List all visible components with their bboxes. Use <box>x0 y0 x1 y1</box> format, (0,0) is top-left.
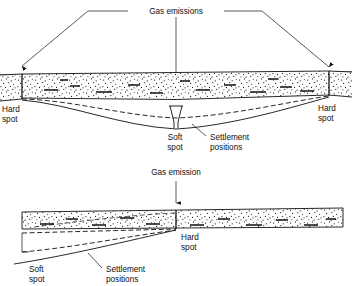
upper-soft-spot-label: Soft spot <box>167 133 183 152</box>
lower-diagram: Gas emission <box>14 168 343 284</box>
lower-gas-emission-label: Gas emission <box>151 168 201 177</box>
upper-settlement-line1: Settlement <box>210 133 250 142</box>
gas-leader-right <box>224 11 329 67</box>
lower-hard-spot-line2: spot <box>181 243 197 252</box>
upper-soft-spot-notch <box>169 106 183 128</box>
upper-settlement-label: Settlement positions <box>210 133 250 152</box>
upper-diagram: Gas emissions <box>0 7 352 152</box>
upper-layer-left-outer <box>0 74 22 101</box>
lower-soft-spot-label: Soft spot <box>29 265 45 284</box>
lower-soft-spot-line1: Soft <box>29 265 44 274</box>
upper-capping-layer <box>22 71 329 100</box>
lower-hard-spot-line1: Hard <box>181 233 199 242</box>
upper-settlement-solid <box>22 97 329 129</box>
gas-leader-left <box>22 11 128 66</box>
upper-left-hard-spot-label: Hard spot <box>2 105 20 124</box>
lower-settlement-dashed-upper <box>22 229 176 233</box>
lower-hard-spot-label: Hard spot <box>181 233 199 252</box>
upper-layer-right-outer <box>329 71 352 97</box>
lower-settlement-leader <box>88 253 102 268</box>
figure-canvas: Gas emissions <box>0 0 352 286</box>
upper-left-hard-spot-line1: Hard <box>2 105 20 114</box>
lower-settlement-line1: Settlement <box>106 265 146 274</box>
upper-settlement-leader <box>192 124 206 136</box>
lower-soft-spot-line2: spot <box>29 275 45 284</box>
upper-settlement-line2: positions <box>210 143 242 152</box>
upper-right-hard-spot-line1: Hard <box>318 104 336 113</box>
lower-settlement-solid <box>14 230 176 264</box>
lower-settlement-label: Settlement positions <box>106 265 146 284</box>
upper-soft-spot-line1: Soft <box>168 133 183 142</box>
upper-gas-emissions-label: Gas emissions <box>149 7 203 16</box>
lower-capping-layer <box>22 208 343 229</box>
upper-left-hard-spot-line2: spot <box>2 115 18 124</box>
upper-right-hard-spot-line2: spot <box>318 114 334 123</box>
lower-settlement-line2: positions <box>106 275 138 284</box>
lower-settlement-dashed-lower <box>22 230 176 252</box>
diagram-svg: Gas emissions <box>0 0 352 286</box>
upper-soft-spot-line2: spot <box>167 143 183 152</box>
upper-right-hard-spot-label: Hard spot <box>318 104 336 123</box>
